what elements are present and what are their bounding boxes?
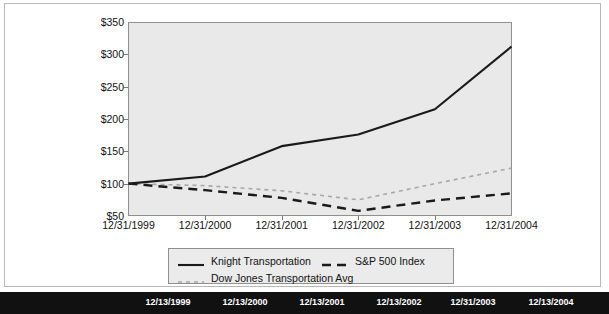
series-line bbox=[129, 168, 512, 200]
legend-label: S&P 500 Index bbox=[355, 255, 425, 267]
footer-date-label: 12/31/2003 bbox=[450, 297, 495, 307]
footer-date-label: 12/13/2004 bbox=[528, 297, 573, 307]
footer-date-label: 12/13/1999 bbox=[145, 297, 190, 307]
series-lines bbox=[128, 22, 512, 216]
legend-item: Knight Transportation bbox=[177, 252, 311, 270]
legend-item: S&P 500 Index bbox=[321, 252, 425, 270]
chart-legend: Knight TransportationS&P 500 IndexDow Jo… bbox=[168, 248, 454, 284]
x-axis-labels: 12/31/199912/31/200012/31/200112/31/2002… bbox=[128, 219, 512, 235]
y-axis-tick-label: $100 bbox=[101, 179, 124, 189]
footer-date-label: 12/13/2002 bbox=[376, 297, 421, 307]
plot-region bbox=[128, 22, 512, 216]
footer-date-label: 12/13/2000 bbox=[222, 297, 267, 307]
legend-label: Dow Jones Transportation Avg bbox=[211, 272, 353, 284]
legend-label: Knight Transportation bbox=[211, 255, 311, 267]
legend-line-swatch bbox=[177, 256, 205, 266]
legend-line-swatch bbox=[177, 273, 205, 283]
legend-item: Dow Jones Transportation Avg bbox=[177, 269, 353, 287]
y-axis-labels: $350$300$250$200$150$100$50 bbox=[82, 22, 124, 216]
x-axis-tick-label: 12/31/2002 bbox=[332, 219, 385, 231]
chart-page: $350$300$250$200$150$100$50 12/31/199912… bbox=[0, 0, 609, 314]
x-axis-tick-label: 12/31/2000 bbox=[179, 219, 232, 231]
series-line bbox=[129, 47, 512, 184]
y-axis-tick-label: $150 bbox=[101, 146, 124, 156]
footer-date-label: 12/13/2001 bbox=[299, 297, 344, 307]
y-axis-tick-label: $250 bbox=[101, 82, 124, 92]
x-axis-tick-label: 12/31/2003 bbox=[409, 219, 462, 231]
x-axis-tick-label: 12/31/2001 bbox=[255, 219, 308, 231]
series-line bbox=[129, 184, 512, 211]
y-axis-tick-label: $300 bbox=[101, 49, 124, 59]
y-axis-tick-label: $350 bbox=[101, 17, 124, 27]
x-axis-tick-label: 12/31/2004 bbox=[485, 219, 538, 231]
y-axis-tick-label: $200 bbox=[101, 114, 124, 124]
x-axis-tick-label: 12/31/1999 bbox=[102, 219, 155, 231]
legend-line-swatch bbox=[321, 256, 349, 266]
footer-date-bar: 12/13/199912/13/200012/13/200112/13/2002… bbox=[0, 292, 609, 314]
